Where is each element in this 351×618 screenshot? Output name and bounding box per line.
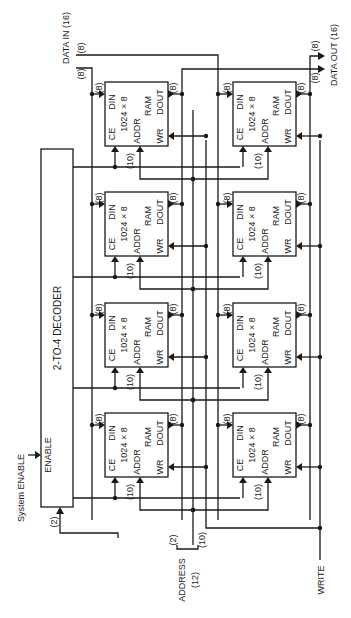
ram-chip: CEDIN1024 × 8ADDRRAMWRDOUT(8)(8)(10) <box>90 192 208 291</box>
decoder-select-wire: (2) <box>49 507 118 538</box>
dout-pin-label: DOUT <box>155 199 165 225</box>
din-pin-label: DIN <box>107 425 117 441</box>
ram-label: RAM <box>271 96 281 116</box>
decoder-input-width: (2) <box>49 516 59 527</box>
ram-chip: CEDIN1024 × 8ADDRRAMWRDOUT(8)(8)(10) <box>191 303 322 402</box>
ce-pin-label: CE <box>107 459 117 472</box>
dout-pin-label: DOUT <box>283 310 293 336</box>
ce-pin-label: CE <box>235 238 245 251</box>
din-pin-label: DIN <box>235 204 245 220</box>
din-pin-label: DIN <box>107 204 117 220</box>
dout-pin-label: DOUT <box>155 420 165 446</box>
wr-pin-label: WR <box>283 459 293 474</box>
ce-pin-label: CE <box>107 349 117 362</box>
address-split-high: (2) <box>168 534 178 545</box>
dout-width-label: (8) <box>168 303 178 314</box>
wr-pin-label: WR <box>155 459 165 474</box>
wr-pin-label: WR <box>283 349 293 364</box>
din-pin-label: DIN <box>107 94 117 110</box>
data-in-label: DATA IN (16) <box>61 12 71 64</box>
din-width-label: (8) <box>222 303 232 314</box>
ce-pin-label: CE <box>107 238 117 251</box>
decoder-enable-label: ENABLE <box>43 437 53 473</box>
din-width-label: (8) <box>222 82 232 93</box>
ram-chip: CEDIN1024 × 8ADDRRAMWRDOUT(8)(8)(10) <box>90 82 208 181</box>
ram-chip: CEDIN1024 × 8ADDRRAMWRDOUT(8)(8)(10) <box>191 82 322 181</box>
chip-size-label: 1024 × 8 <box>119 206 129 241</box>
ram-label: RAM <box>271 427 281 447</box>
addr-pin-label: ADDR <box>132 339 142 365</box>
ram-label: RAM <box>143 317 153 337</box>
din-pin-label: DIN <box>235 425 245 441</box>
ram-chip: CEDIN1024 × 8ADDRRAMWRDOUT(8)(8)(10) <box>90 413 208 512</box>
ram-label: RAM <box>271 317 281 337</box>
ram-label: RAM <box>143 96 153 116</box>
din-width-label: (8) <box>94 303 104 314</box>
dout-pin-label: DOUT <box>283 420 293 446</box>
chip-size-label: 1024 × 8 <box>119 427 129 462</box>
addr-pin-label: ADDR <box>132 449 142 475</box>
dout-pin-label: DOUT <box>283 199 293 225</box>
wr-pin-label: WR <box>283 128 293 143</box>
wr-pin-label: WR <box>155 238 165 253</box>
din-width-label: (8) <box>94 413 104 424</box>
address-label: ADDRESS <box>177 558 187 602</box>
addr-width-label: (10) <box>253 153 263 169</box>
addr-pin-label: ADDR <box>132 228 142 254</box>
addr-width-label: (10) <box>125 263 135 279</box>
decoder-block: 2-TO-4 DECODER ENABLE <box>41 149 73 507</box>
din-pin-label: DIN <box>235 94 245 110</box>
dout-width-label: (8) <box>296 82 306 93</box>
din-width-label: (8) <box>94 82 104 93</box>
addr-width-label: (10) <box>253 484 263 500</box>
addr-pin-label: ADDR <box>260 339 270 365</box>
dout-width-label: (8) <box>296 413 306 424</box>
dout-width-label: (8) <box>296 303 306 314</box>
address-input: ADDRESS (12) (2) (10) <box>168 532 207 602</box>
addr-width-label: (10) <box>125 484 135 500</box>
dout-width-label: (8) <box>296 192 306 203</box>
data-out-width-a: (8) <box>310 40 320 51</box>
system-enable-label: System ENABLE <box>16 454 26 522</box>
ce-pin-label: CE <box>235 349 245 362</box>
din-pin-label: DIN <box>107 315 117 331</box>
ram-label: RAM <box>143 206 153 226</box>
decoder-title: 2-TO-4 DECODER <box>52 286 63 370</box>
din-width-label: (8) <box>222 413 232 424</box>
data-out-label: DATA OUT (16) <box>329 24 339 86</box>
ce-pin-label: CE <box>235 459 245 472</box>
addr-pin-label: ADDR <box>132 118 142 144</box>
wr-pin-label: WR <box>155 349 165 364</box>
addr-pin-label: ADDR <box>260 449 270 475</box>
data-out-width-b: (8) <box>310 72 320 83</box>
chip-size-label: 1024 × 8 <box>247 427 257 462</box>
dout-width-label: (8) <box>168 192 178 203</box>
chip-size-label: 1024 × 8 <box>119 317 129 352</box>
addr-width-label: (10) <box>125 374 135 390</box>
write-label: WRITE <box>316 566 326 595</box>
wr-pin-label: WR <box>155 128 165 143</box>
addr-pin-label: ADDR <box>260 228 270 254</box>
chip-size-label: 1024 × 8 <box>247 206 257 241</box>
ce-pin-label: CE <box>107 128 117 141</box>
data-in-width-b: (8) <box>76 68 86 79</box>
wr-pin-label: WR <box>283 238 293 253</box>
dout-pin-label: DOUT <box>155 89 165 115</box>
addr-width-label: (10) <box>253 374 263 390</box>
chip-size-label: 1024 × 8 <box>247 317 257 352</box>
ram-chip: CEDIN1024 × 8ADDRRAMWRDOUT(8)(8)(10) <box>90 303 208 402</box>
ram-label: RAM <box>271 206 281 226</box>
dout-pin-label: DOUT <box>155 310 165 336</box>
din-pin-label: DIN <box>235 315 245 331</box>
dout-width-label: (8) <box>168 413 178 424</box>
system-enable-input: System ENABLE <box>16 451 41 522</box>
address-split-low: (10) <box>197 532 207 548</box>
address-width: (12) <box>190 572 200 588</box>
ram-label: RAM <box>143 427 153 447</box>
ce-pin-label: CE <box>235 128 245 141</box>
addr-width-label: (10) <box>253 263 263 279</box>
ram-chip: CEDIN1024 × 8ADDRRAMWRDOUT(8)(8)(10) <box>191 192 322 291</box>
din-width-label: (8) <box>94 192 104 203</box>
data-in-width-a: (8) <box>76 42 86 53</box>
addr-width-label: (10) <box>125 153 135 169</box>
